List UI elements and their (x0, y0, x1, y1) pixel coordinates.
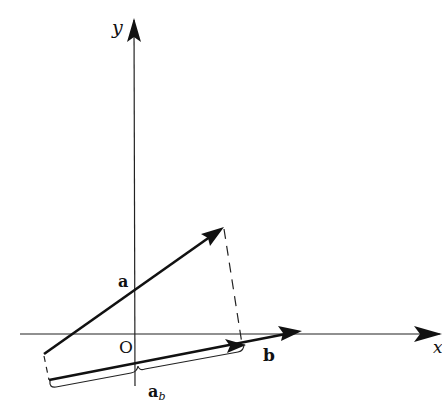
diagram-svg (0, 0, 442, 404)
projection-line-tail (44, 356, 49, 380)
vector-a-b-label: ab (148, 384, 165, 402)
diagram-canvas: y x O a b ab (0, 0, 442, 404)
y-axis-label: y (112, 18, 123, 37)
projection-brace (50, 344, 244, 387)
projection-line-tip (224, 229, 242, 344)
y-axis (127, 18, 141, 386)
vector-a-b-label-base: a (148, 382, 158, 401)
vector-a-b-label-subscript: b (158, 390, 165, 403)
vector-b-label: b (263, 347, 275, 364)
x-axis (20, 326, 442, 342)
vector-a-label: a (118, 274, 128, 290)
origin-label: O (119, 339, 133, 356)
x-axis-label: x (433, 339, 442, 356)
projection-lines (44, 229, 242, 380)
vector-a (44, 227, 224, 354)
vector-a-arrow-icon (201, 227, 224, 246)
